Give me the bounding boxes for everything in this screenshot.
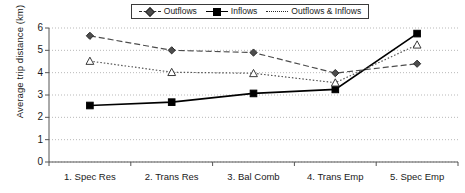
- legend-item-outflows: Outflows: [139, 7, 197, 16]
- legend-label-outflows: Outflows: [164, 7, 197, 16]
- data-point: [250, 90, 257, 97]
- legend-marker-triangle-icon: [266, 7, 288, 16]
- data-point: [413, 41, 421, 48]
- data-point: [332, 70, 339, 77]
- legend-marker-diamond-icon: [139, 7, 161, 16]
- data-point: [414, 60, 421, 67]
- data-point: [414, 30, 421, 37]
- plot-area: [0, 0, 465, 193]
- legend-item-inflows: Inflows: [206, 7, 257, 16]
- legend-marker-square-icon: [206, 7, 228, 16]
- data-point: [332, 86, 339, 93]
- legend-label-outflows-and-inflows: Outflows & Inflows: [291, 7, 361, 16]
- data-point: [168, 47, 175, 54]
- data-point: [168, 99, 175, 106]
- data-point: [86, 57, 94, 64]
- legend-item-outflows-and-inflows: Outflows & Inflows: [266, 7, 361, 16]
- chart-legend: Outflows Inflows Outflows & Inflows: [131, 4, 369, 19]
- data-point: [86, 32, 93, 39]
- data-point: [87, 102, 94, 109]
- legend-label-inflows: Inflows: [231, 7, 257, 16]
- line-chart: Average trip distance (km) 0123456 1. Sp…: [0, 0, 465, 193]
- data-point: [331, 79, 339, 86]
